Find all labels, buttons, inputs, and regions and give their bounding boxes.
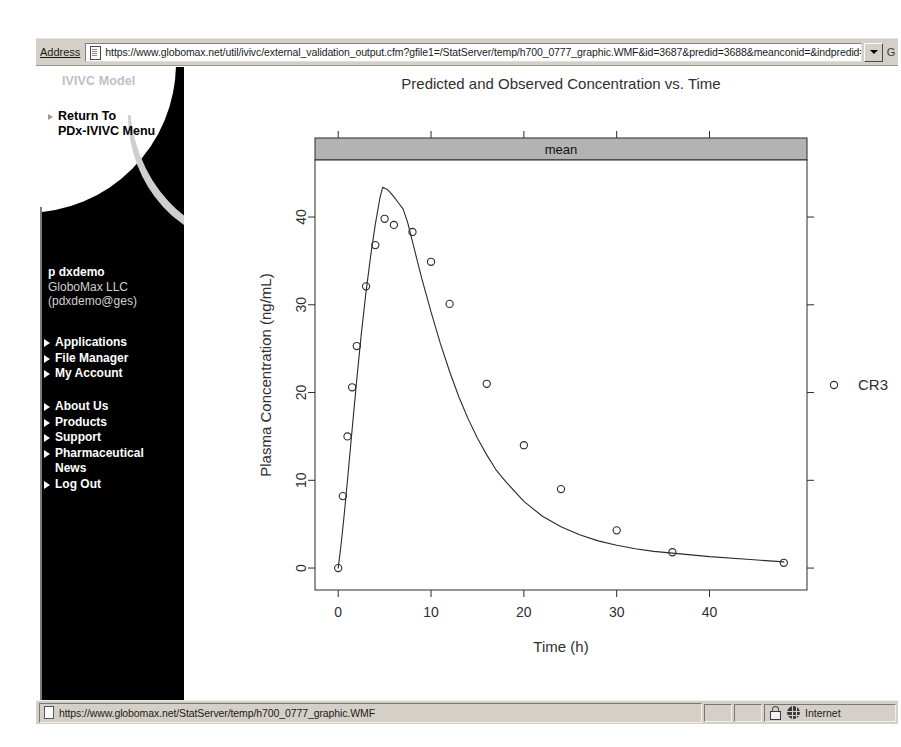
status-pane-a	[704, 704, 732, 722]
x-axis-tick-label: 10	[423, 604, 439, 620]
triangle-bullet-icon	[44, 355, 50, 363]
chart-panel: Predicted and Observed Concentration vs.…	[184, 67, 898, 700]
address-dropdown-button[interactable]	[864, 43, 883, 62]
triangle-bullet-icon	[44, 370, 50, 378]
y-axis-tick-label: 10	[293, 472, 309, 488]
status-pane-b	[734, 704, 762, 722]
sidebar-item-file-manager[interactable]: File Manager	[44, 351, 184, 366]
address-label-text: Address	[40, 46, 80, 58]
x-axis-tick-label: 20	[516, 604, 532, 620]
legend-label: CR3	[858, 376, 888, 393]
sidebar: IVIVC Model Return To PDx-IVIVC Menu p d…	[36, 67, 184, 700]
triangle-bullet-icon	[44, 403, 50, 411]
triangle-bullet-icon	[44, 434, 50, 442]
user-name: p dxdemo	[48, 265, 184, 280]
status-url-pane: https://www.globomax.net/StatServer/temp…	[39, 703, 702, 723]
y-axis-tick-label: 40	[293, 209, 309, 225]
sidebar-item-label: News	[55, 461, 86, 476]
address-label: Address	[40, 46, 80, 58]
sidebar-item-label: Pharmaceutical	[55, 446, 144, 461]
user-info: p dxdemo GloboMax LLC (pdxdemo@ges)	[48, 265, 184, 309]
sidebar-item-label: Log Out	[55, 477, 101, 492]
sidebar-item-label: My Account	[55, 366, 123, 381]
concentration-vs-time-chart: Predicted and Observed Concentration vs.…	[184, 67, 898, 700]
triangle-bullet-icon	[44, 339, 50, 347]
sidebar-app-menu: ApplicationsFile ManagerMy Account	[44, 335, 184, 382]
sidebar-item-about-us[interactable]: About Us	[44, 399, 184, 414]
sidebar-item-return-to-menu[interactable]: Return To PDx-IVIVC Menu	[48, 109, 180, 139]
panel-strip-label: mean	[545, 142, 578, 157]
chevron-down-icon	[870, 50, 878, 54]
sidebar-item-label: Support	[55, 430, 101, 445]
y-axis-tick-label: 0	[293, 564, 309, 572]
browser-window: Address https://www.globomax.net/util/iv…	[0, 0, 901, 747]
x-axis-tick-label: 0	[334, 604, 342, 620]
triangle-bullet-icon	[44, 419, 50, 427]
sidebar-item-products[interactable]: Products	[44, 415, 184, 430]
status-bar: https://www.globomax.net/StatServer/temp…	[36, 700, 898, 724]
sidebar-item-applications[interactable]: Applications	[44, 335, 184, 350]
page-icon	[43, 706, 55, 719]
y-axis-label: Plasma Concentration (ng/mL)	[257, 273, 274, 476]
triangle-bullet-icon	[44, 481, 50, 489]
sidebar-item-label: Products	[55, 415, 107, 430]
triangle-bullet-icon	[44, 465, 50, 473]
address-url-text: https://www.globomax.net/util/ivivc/exte…	[105, 46, 861, 58]
y-axis-tick-label: 20	[293, 385, 309, 401]
status-url-text: https://www.globomax.net/StatServer/temp…	[59, 707, 375, 719]
chart-title: Predicted and Observed Concentration vs.…	[401, 75, 720, 92]
page-content: IVIVC Model Return To PDx-IVIVC Menu p d…	[36, 67, 898, 700]
triangle-bullet-icon	[48, 114, 53, 120]
sidebar-item-label: Applications	[55, 335, 127, 350]
x-axis-tick-label: 40	[702, 604, 718, 620]
sidebar-item-support[interactable]: Support	[44, 430, 184, 445]
go-button[interactable]: G	[884, 46, 898, 58]
sidebar-item-my-account[interactable]: My Account	[44, 366, 184, 381]
x-axis-tick-label: 30	[609, 604, 625, 620]
page-title: IVIVC Model	[62, 74, 135, 88]
x-axis-label: Time (h)	[533, 638, 588, 655]
triangle-bullet-icon	[44, 450, 50, 458]
status-zone-pane[interactable]: Internet	[764, 704, 896, 722]
lock-icon	[769, 706, 780, 719]
plot-frame	[315, 160, 807, 590]
sidebar-item-pharmaceutical[interactable]: Pharmaceutical	[44, 446, 184, 461]
sidebar-left-rule	[40, 207, 42, 700]
user-company: GloboMax LLC	[48, 280, 184, 295]
page-icon	[88, 45, 102, 60]
sidebar-item-label: About Us	[55, 399, 108, 414]
globe-icon	[787, 706, 800, 719]
sidebar-item-label: Return To PDx-IVIVC Menu	[58, 109, 155, 139]
y-axis-tick-label: 30	[293, 297, 309, 313]
address-input[interactable]: https://www.globomax.net/util/ivivc/exte…	[85, 43, 862, 62]
status-zone-text: Internet	[805, 707, 841, 719]
address-bar: Address https://www.globomax.net/util/iv…	[36, 38, 898, 66]
sidebar-item-label: File Manager	[55, 351, 128, 366]
legend-marker-icon	[830, 381, 837, 388]
sidebar-item-log-out[interactable]: Log Out	[44, 477, 184, 492]
sidebar-info-menu: About UsProductsSupportPharmaceuticalNew…	[44, 399, 184, 492]
user-email: (pdxdemo@ges)	[48, 294, 184, 309]
sidebar-item-news[interactable]: News	[44, 461, 184, 476]
